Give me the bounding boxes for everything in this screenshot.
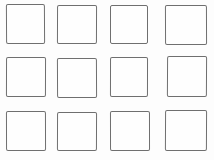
square-r3-c4 bbox=[165, 110, 207, 151]
square-r1-c1 bbox=[6, 4, 45, 44]
squares-grid-figure bbox=[0, 0, 214, 160]
square-r1-c4 bbox=[165, 5, 207, 45]
square-r3-c3 bbox=[110, 111, 150, 151]
square-r2-c4 bbox=[167, 56, 207, 97]
square-r2-c3 bbox=[110, 57, 148, 97]
square-r2-c2 bbox=[57, 58, 97, 98]
square-r1-c3 bbox=[110, 5, 148, 44]
square-r3-c2 bbox=[57, 112, 97, 151]
square-r3-c1 bbox=[6, 111, 46, 151]
square-r2-c1 bbox=[6, 57, 46, 97]
square-r1-c2 bbox=[57, 5, 97, 44]
